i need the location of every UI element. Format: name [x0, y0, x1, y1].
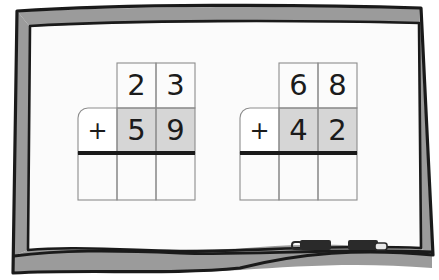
whiteboard-frame: [0, 0, 439, 280]
whiteboard-scene: 2 3 + 5 9 6 8: [0, 0, 439, 280]
whiteboard-surface[interactable]: [20, 10, 421, 252]
